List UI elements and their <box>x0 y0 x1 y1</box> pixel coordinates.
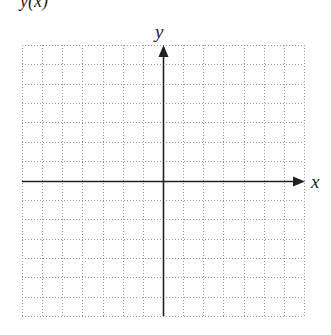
coordinate-plane: y(x) y x <box>0 0 331 335</box>
y-axis <box>159 45 169 316</box>
y-axis-arrow-icon <box>159 45 169 57</box>
x-axis-arrow-icon <box>293 177 305 187</box>
header-label: y(x) <box>18 0 48 12</box>
y-axis-label: y <box>153 21 164 42</box>
x-axis-label: x <box>310 171 320 192</box>
